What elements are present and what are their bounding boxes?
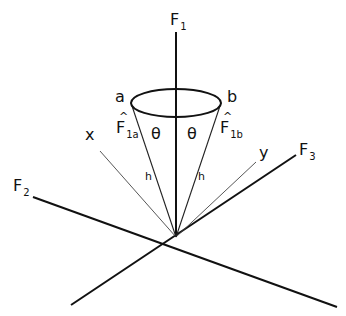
theta-left-label: θ — [151, 126, 161, 142]
y-label: y — [259, 145, 268, 161]
f1b-hat-symbol: ^ — [223, 111, 232, 122]
f3-label-main: F — [299, 140, 308, 159]
h-left-label: h — [145, 171, 152, 182]
f3-label: F3 — [299, 142, 315, 158]
f1a-label-sub: 1a — [126, 129, 139, 140]
point-b-label: b — [227, 89, 237, 105]
f2-label-main: F — [13, 176, 22, 195]
f1a-hat-label: ^F1a — [116, 120, 138, 136]
x-label: x — [85, 127, 94, 143]
theta-right-label: θ — [187, 126, 197, 142]
f2-label: F2 — [13, 178, 29, 194]
h-right-label: h — [198, 171, 205, 182]
f1-label-main: F — [170, 10, 179, 29]
y-line — [176, 162, 256, 237]
f1-label: F1 — [170, 12, 186, 28]
cone-diagram — [0, 0, 346, 316]
f1a-hat-symbol: ^ — [119, 111, 128, 122]
f1b-hat-label: ^F1b — [220, 120, 242, 136]
f3-label-sub: 3 — [309, 151, 315, 162]
f1b-label-sub: 1b — [230, 129, 243, 140]
f2-axis — [33, 197, 337, 307]
x-line — [100, 151, 176, 237]
point-a-label: a — [115, 89, 125, 105]
f1-label-sub: 1 — [180, 21, 186, 32]
f2-label-sub: 2 — [23, 187, 29, 198]
